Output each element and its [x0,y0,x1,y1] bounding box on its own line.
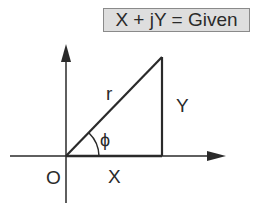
label-x: X [108,166,121,187]
hypotenuse-r [66,57,162,156]
phasor-diagram: r Y ϕ O X [0,0,255,212]
label-origin: O [46,167,61,188]
label-r: r [106,83,113,104]
horizontal-axis-arrowhead [207,151,226,161]
label-y: Y [176,95,189,116]
vertical-axis-arrowhead [61,44,71,62]
label-phi: ϕ [100,130,110,150]
angle-arc [89,133,99,156]
